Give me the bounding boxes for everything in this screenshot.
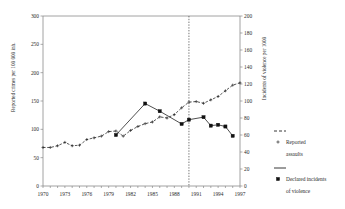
- x-tick-label: 1982: [125, 191, 136, 197]
- data-point-marker: [224, 125, 227, 128]
- legend-label: Reported: [286, 139, 306, 145]
- legend-marker: [276, 177, 279, 180]
- x-tick-label: 1988: [169, 191, 180, 197]
- x-tick-label: 1973: [59, 191, 70, 197]
- y2-tick-label: 180: [244, 30, 252, 36]
- y-tick-label: 0: [36, 183, 39, 189]
- y2-tick-label: 20: [244, 166, 250, 172]
- data-point-marker: [114, 133, 117, 136]
- y2-tick-label: 80: [244, 115, 250, 121]
- y-tick-label: 100: [31, 126, 39, 132]
- data-point-marker: [180, 122, 183, 125]
- data-point-marker: [202, 116, 205, 119]
- y-tick-label: 50: [34, 155, 40, 161]
- x-tick-label: 1991: [191, 191, 202, 197]
- chart-container: 1970197319761979198219851988199119941997…: [0, 0, 345, 209]
- y2-tick-label: 40: [244, 149, 250, 155]
- y2-tick-label: 160: [244, 47, 252, 53]
- y2-tick-label: 200: [244, 13, 252, 19]
- y-tick-label: 250: [31, 41, 39, 47]
- data-point-marker: [231, 134, 234, 137]
- y2-tick-label: 100: [244, 98, 252, 104]
- y-tick-label: 150: [31, 98, 39, 104]
- data-point-marker: [187, 118, 190, 121]
- x-tick-label: 1985: [147, 191, 158, 197]
- x-tick-label: 1976: [81, 191, 92, 197]
- x-tick-label: 1994: [213, 191, 224, 197]
- y2-tick-label: 60: [244, 132, 250, 138]
- data-point-marker: [209, 124, 212, 127]
- y2-tick-label: 120: [244, 81, 252, 87]
- y-axis-left-title: Reported crimes per 100 000 inh.: [10, 43, 16, 112]
- x-tick-label: 1970: [38, 191, 49, 197]
- y-tick-label: 200: [31, 70, 39, 76]
- crime-statistics-line-chart: 1970197319761979198219851988199119941997…: [0, 0, 345, 209]
- y-axis-right-title: Incidents of violence per 1000: [261, 37, 267, 100]
- y2-tick-label: 0: [244, 183, 247, 189]
- x-tick-label: 1979: [103, 191, 114, 197]
- x-tick-label: 1997: [235, 191, 246, 197]
- y-tick-label: 300: [31, 13, 39, 19]
- y2-tick-label: 140: [244, 64, 252, 70]
- data-point-marker: [158, 110, 161, 113]
- data-point-marker: [144, 102, 147, 105]
- legend-label: Declared incidents: [286, 176, 326, 182]
- legend-label: of violence: [286, 188, 311, 194]
- data-point-marker: [217, 123, 220, 126]
- legend-label: assaults: [286, 151, 303, 157]
